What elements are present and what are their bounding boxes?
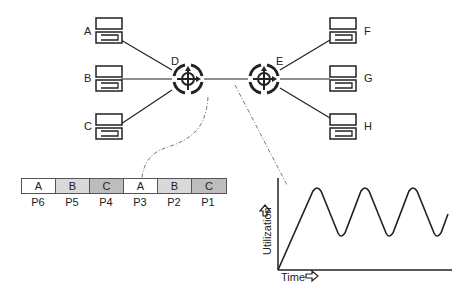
packet-name: P2 — [157, 196, 191, 208]
graph-x-label: Time — [281, 271, 305, 283]
host-H-icon — [330, 114, 356, 139]
packet-cell: A — [124, 179, 158, 193]
packet-name: P4 — [89, 196, 123, 208]
callout-link-graph — [235, 85, 287, 185]
router-E-icon — [249, 64, 279, 94]
packet-queue: A B C A B C — [21, 178, 227, 194]
arrow-right-icon — [306, 271, 318, 281]
link-A-D — [121, 40, 172, 70]
host-H-label: H — [364, 121, 372, 132]
packet-names: P6 P5 P4 P3 P2 P1 — [21, 196, 225, 208]
packet-cell: B — [158, 179, 192, 193]
graph-y-label: Utilization — [261, 207, 273, 255]
host-C-label: C — [84, 121, 92, 132]
router-E-label: E — [276, 56, 283, 67]
host-B-label: B — [84, 73, 91, 84]
link-C-D — [121, 90, 172, 124]
host-G-label: G — [364, 73, 373, 84]
router-D-icon — [173, 64, 203, 94]
link-E-H — [280, 88, 330, 118]
packet-name: P5 — [55, 196, 89, 208]
host-F-label: F — [364, 26, 371, 37]
host-A-icon — [96, 18, 122, 43]
link-E-F — [280, 40, 330, 70]
network-diagram-canvas — [0, 0, 472, 296]
packet-cell: C — [90, 179, 124, 193]
packet-cell: C — [192, 179, 226, 193]
router-D-label: D — [171, 56, 179, 67]
host-C-icon — [96, 114, 122, 139]
packet-cell: A — [22, 179, 56, 193]
packet-name: P6 — [21, 196, 55, 208]
host-G-icon — [330, 66, 356, 91]
callout-D-queue — [142, 97, 208, 178]
host-F-icon — [330, 18, 356, 43]
host-B-icon — [96, 66, 122, 91]
host-A-label: A — [84, 26, 91, 37]
packet-cell: B — [56, 179, 90, 193]
utilization-curve — [278, 188, 448, 270]
packet-name: P1 — [191, 196, 225, 208]
packet-name: P3 — [123, 196, 157, 208]
